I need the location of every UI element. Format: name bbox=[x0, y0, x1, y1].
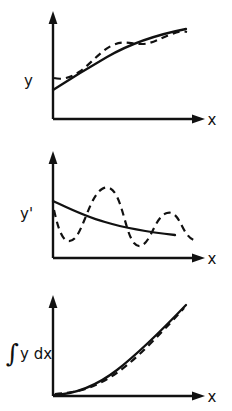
panel-y-prime-x-axis-label: x bbox=[208, 250, 217, 268]
panel-y-prime-axis-label: y' bbox=[20, 205, 33, 223]
panel-integral-axis-label: y dx bbox=[20, 345, 52, 363]
panel-integral-dashed-curve bbox=[55, 308, 184, 394]
panel-integral-horizontal-axis-arrow-icon bbox=[192, 392, 205, 401]
panel-y-solid-curve bbox=[53, 29, 186, 90]
panel-y-prime: y' x bbox=[20, 151, 217, 268]
panel-y-axis-label: y bbox=[24, 72, 33, 90]
panel-y-prime-solid-curve bbox=[53, 201, 175, 235]
panel-integral-solid-curve bbox=[54, 305, 186, 395]
panel-y-prime-horizontal-axis-arrow-icon bbox=[192, 254, 205, 263]
panel-y-vertical-axis-arrow-icon bbox=[49, 11, 58, 24]
panel-y-prime-dashed-curve bbox=[54, 187, 194, 246]
panel-integral: ∫ y dx x bbox=[6, 295, 217, 406]
panel-integral-vertical-axis-arrow-icon bbox=[49, 295, 58, 308]
panel-integral-integral-sign-icon: ∫ bbox=[6, 339, 19, 368]
panel-y-prime-vertical-axis-arrow-icon bbox=[49, 151, 58, 164]
panel-y-horizontal-axis-arrow-icon bbox=[192, 115, 205, 124]
panel-integral-x-axis-label: x bbox=[208, 388, 217, 406]
panel-y: y x bbox=[24, 11, 217, 129]
panel-y-x-axis-label: x bbox=[208, 111, 217, 129]
three-panel-calculus-figure: y x y' x ∫ y dx bbox=[0, 0, 232, 411]
panel-y-dashed-curve bbox=[54, 31, 187, 78]
